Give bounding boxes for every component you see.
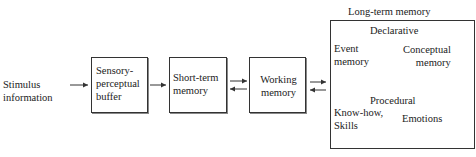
event-memory-label: Event memory — [334, 42, 369, 68]
conceptual-memory-label: Conceptual memory — [403, 43, 451, 69]
conceptual-line2: memory — [403, 56, 451, 69]
sensory-perceptual-buffer-box: Sensory- perceptual buffer — [91, 57, 148, 113]
skills-line1: Know-how, — [334, 106, 383, 119]
event-line2: memory — [334, 55, 369, 68]
long-term-memory-title: Long-term memory — [348, 5, 431, 18]
sensory-line3: buffer — [96, 90, 140, 103]
emotions-label: Emotions — [402, 112, 442, 125]
working-memory-box: Working memory — [249, 57, 306, 113]
short-term-line1: Short-term — [173, 71, 219, 84]
know-how-skills-label: Know-how, Skills — [334, 106, 383, 132]
working-line2: memory — [250, 86, 307, 99]
sensory-line2: perceptual — [96, 77, 140, 90]
sensory-line1: Sensory- — [96, 64, 140, 77]
short-term-line2: memory — [173, 84, 219, 97]
declarative-label: Declarative — [370, 24, 418, 37]
conceptual-line1: Conceptual — [403, 43, 451, 56]
short-term-memory-box: Short-term memory — [169, 57, 227, 113]
event-line1: Event — [334, 42, 369, 55]
skills-line2: Skills — [334, 119, 383, 132]
stimulus-information-label: Stimulus information — [3, 78, 53, 104]
stimulus-line1: Stimulus — [3, 78, 53, 91]
stimulus-line2: information — [3, 91, 53, 104]
working-line1: Working — [250, 73, 307, 86]
